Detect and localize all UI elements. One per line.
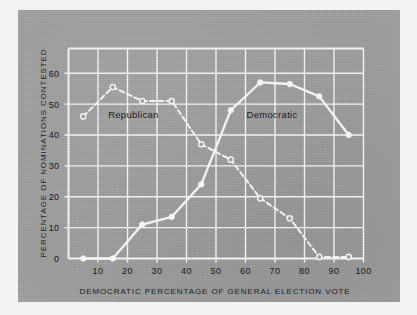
x-tick-label: 30: [152, 266, 163, 276]
x-tick-label: 70: [270, 266, 281, 276]
x-tick-label: 90: [329, 266, 340, 276]
data-point-republican-15: [110, 85, 115, 90]
y-tick-label: 20: [49, 192, 60, 202]
x-tick-label: 50: [211, 266, 222, 276]
y-tick-label: 10: [49, 223, 60, 233]
x-tick-label: 40: [181, 266, 192, 276]
data-point-republican-25: [140, 98, 145, 103]
data-point-republican-65: [258, 196, 263, 201]
y-tick-label: 0: [54, 254, 59, 264]
data-point-democratic-35: [169, 214, 174, 219]
data-point-democratic-85: [317, 94, 322, 99]
chart-svg: 102030405060708090100 0102030405060 Repu…: [0, 0, 417, 315]
data-point-republican-45: [199, 142, 204, 147]
x-axis-title: DEMOCRATIC PERCENTAGE OF GENERAL ELECTIO…: [79, 287, 350, 296]
data-point-democratic-45: [199, 182, 204, 187]
figure-container: 102030405060708090100 0102030405060 Repu…: [0, 0, 417, 315]
data-point-republican-75: [287, 216, 292, 221]
data-point-republican-95: [346, 254, 351, 259]
x-tick-label: 60: [240, 266, 251, 276]
data-point-republican-85: [317, 254, 322, 259]
y-tick-label: 40: [49, 130, 60, 140]
x-tick-label: 80: [299, 266, 310, 276]
data-point-republican-55: [228, 157, 233, 162]
series-annotations: RepublicanDemocratic: [108, 109, 297, 120]
data-point-democratic-5: [81, 256, 86, 261]
x-tick-label: 10: [93, 266, 104, 276]
x-tick-label: 20: [122, 266, 133, 276]
data-point-democratic-15: [110, 256, 115, 261]
series-annotation-republican: Republican: [108, 109, 159, 120]
data-point-republican-35: [169, 98, 174, 103]
y-tick-label: 30: [49, 161, 60, 171]
series-annotation-democratic: Democratic: [247, 109, 298, 120]
y-tick-labels: 0102030405060: [49, 69, 60, 264]
y-tick-label: 50: [49, 100, 60, 110]
data-point-democratic-75: [287, 81, 292, 86]
data-point-republican-5: [81, 114, 86, 119]
data-point-democratic-95: [346, 132, 351, 137]
gridlines: [65, 49, 364, 263]
y-axis-title: PERCENTAGE OF NOMINATIONS CONTESTED: [39, 49, 48, 258]
x-tick-label: 100: [355, 266, 371, 276]
data-point-democratic-65: [258, 80, 263, 85]
y-tick-label: 60: [49, 69, 60, 79]
x-tick-labels: 102030405060708090100: [93, 266, 372, 276]
data-point-democratic-55: [228, 108, 233, 113]
data-point-democratic-25: [140, 222, 145, 227]
